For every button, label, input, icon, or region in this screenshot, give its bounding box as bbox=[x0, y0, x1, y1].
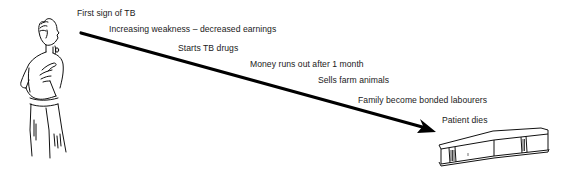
step-patient-dies: Patient dies bbox=[442, 116, 488, 125]
tb-cost-diagram: First sign of TB Increasing weakness – d… bbox=[0, 0, 562, 182]
step-bonded-labourers: Family become bonded labourers bbox=[358, 96, 487, 105]
step-increasing-weakness: Increasing weakness – decreased earnings bbox=[109, 25, 276, 34]
diagram-graphics bbox=[0, 0, 562, 182]
step-sells-farm-animals: Sells farm animals bbox=[318, 76, 389, 85]
coffin-icon bbox=[439, 128, 549, 166]
coughing-man-icon bbox=[21, 19, 66, 158]
step-money-runs-out: Money runs out after 1 month bbox=[250, 60, 364, 69]
step-first-sign: First sign of TB bbox=[77, 9, 135, 18]
step-starts-drugs: Starts TB drugs bbox=[178, 44, 238, 53]
